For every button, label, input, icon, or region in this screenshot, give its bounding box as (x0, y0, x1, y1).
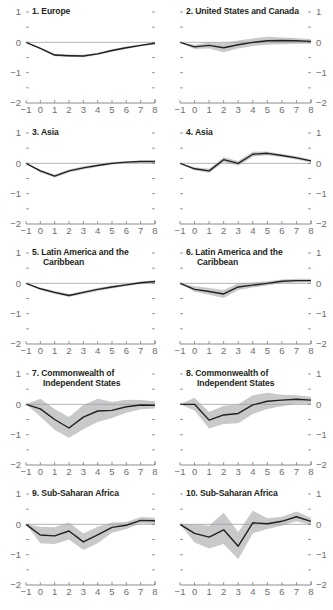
x-tick-label: 1 (52, 466, 57, 477)
x-tick-label: 1 (206, 225, 211, 236)
x-tick-label: −1 (175, 466, 186, 477)
x-tick-label: 8 (308, 466, 313, 477)
x-tick-label: 0 (192, 586, 197, 597)
panel-title-line1: 10. Sub-Saharan Africa (186, 488, 278, 498)
x-tick-label: 3 (236, 225, 241, 236)
x-tick-label: −1 (21, 466, 32, 477)
x-tick-label: 3 (236, 104, 241, 115)
x-tick-label: 4 (250, 466, 255, 477)
y-tick-label: 1 (316, 368, 321, 379)
y-tick-label: −1 (316, 428, 327, 439)
panel-8: −101234567810−1−28. Commonwealth ofIndep… (166, 362, 332, 484)
y-tick-label: −1 (10, 187, 21, 198)
y-tick-label: 1 (316, 247, 321, 258)
y-tick-label: −1 (316, 187, 327, 198)
x-tick-label: 6 (279, 586, 284, 597)
x-tick-label: 1 (52, 225, 57, 236)
x-tick-label: 7 (138, 586, 143, 597)
y-tick-label: 1 (316, 488, 321, 499)
panel-title-line1: 4. Asia (186, 127, 213, 137)
panel-4: −101234567810−1−24. Asia (166, 121, 332, 243)
panel-title: 7. Commonwealth ofIndependent States (32, 368, 120, 388)
x-tick-label: 2 (221, 345, 226, 356)
x-tick-label: 7 (294, 345, 299, 356)
panel-title: 6. Latin America and theCaribbean (186, 247, 283, 267)
x-tick-label: 1 (52, 586, 57, 597)
y-tick-label: 0 (316, 519, 321, 530)
x-tick-label: 7 (138, 104, 143, 115)
x-tick-label: 0 (38, 225, 43, 236)
panel-title: 5. Latin America and theCaribbean (32, 247, 129, 267)
y-tick-label: −2 (316, 218, 327, 229)
x-tick-label: 7 (294, 586, 299, 597)
panel-7: −101234567810−1−27. Commonwealth ofIndep… (0, 362, 166, 484)
plot-area: −101234567810−1−2 (166, 482, 332, 604)
y-tick-label: −1 (10, 549, 21, 560)
x-tick-label: 6 (279, 225, 284, 236)
panel-title: 3. Asia (32, 127, 59, 137)
x-tick-label: 5 (109, 225, 114, 236)
y-tick-label: 0 (316, 37, 321, 48)
panel-title: 9. Sub-Saharan Africa (32, 488, 119, 498)
x-tick-label: 3 (236, 345, 241, 356)
x-tick-label: 7 (294, 225, 299, 236)
panel-1: −101234567810−1−21. Europe (0, 0, 166, 122)
x-tick-label: −1 (21, 586, 32, 597)
y-tick-label: −2 (10, 97, 21, 108)
x-tick-label: 2 (221, 466, 226, 477)
y-tick-label: 0 (16, 157, 21, 168)
x-tick-label: 3 (81, 466, 86, 477)
x-tick-label: 0 (38, 466, 43, 477)
x-tick-label: 4 (250, 225, 255, 236)
y-tick-label: −2 (10, 338, 21, 349)
y-tick-label: 1 (16, 127, 21, 138)
y-tick-label: 1 (316, 127, 321, 138)
x-tick-label: 4 (250, 586, 255, 597)
x-tick-label: 3 (236, 586, 241, 597)
x-tick-label: 4 (95, 586, 100, 597)
x-tick-label: −1 (175, 225, 186, 236)
y-tick-label: 0 (16, 398, 21, 409)
x-tick-label: 1 (206, 586, 211, 597)
y-tick-label: 0 (316, 157, 321, 168)
y-tick-label: 0 (316, 398, 321, 409)
x-tick-label: 6 (279, 345, 284, 356)
panel-title-line1: 5. Latin America and the (32, 247, 129, 257)
x-tick-label: 5 (109, 466, 114, 477)
x-tick-label: 6 (124, 225, 129, 236)
x-tick-label: 3 (81, 345, 86, 356)
x-tick-label: 2 (221, 225, 226, 236)
plot-area: −101234567810−1−2 (0, 0, 166, 122)
x-tick-label: 5 (109, 586, 114, 597)
x-tick-label: 6 (124, 586, 129, 597)
panel-title: 2. United States and Canada (186, 6, 299, 16)
y-tick-label: −1 (10, 67, 21, 78)
y-tick-label: −2 (316, 338, 327, 349)
x-tick-label: 0 (38, 104, 43, 115)
x-tick-label: −1 (175, 345, 186, 356)
x-tick-label: 4 (250, 104, 255, 115)
panel-3: −101234567810−1−23. Asia (0, 121, 166, 243)
x-tick-label: 8 (308, 225, 313, 236)
plot-area: −101234567810−1−2 (0, 482, 166, 604)
y-tick-label: −2 (10, 218, 21, 229)
x-tick-label: 5 (109, 104, 114, 115)
plot-area: −101234567810−1−2 (166, 0, 332, 122)
x-tick-label: 7 (138, 466, 143, 477)
x-tick-label: 5 (265, 466, 270, 477)
x-tick-label: 8 (152, 345, 157, 356)
x-tick-label: 4 (250, 345, 255, 356)
x-tick-label: 1 (206, 104, 211, 115)
x-tick-label: 6 (124, 104, 129, 115)
panel-title: 1. Europe (32, 6, 70, 16)
panel-title-line1: 6. Latin America and the (186, 247, 283, 257)
x-tick-label: 1 (52, 345, 57, 356)
x-tick-label: 6 (279, 104, 284, 115)
x-tick-label: 1 (206, 466, 211, 477)
panel-2: −101234567810−1−22. United States and Ca… (166, 0, 332, 122)
x-tick-label: 0 (192, 104, 197, 115)
x-tick-label: 8 (152, 225, 157, 236)
plot-area: −101234567810−1−2 (0, 121, 166, 243)
y-tick-label: −2 (10, 579, 21, 590)
x-tick-label: 2 (221, 586, 226, 597)
